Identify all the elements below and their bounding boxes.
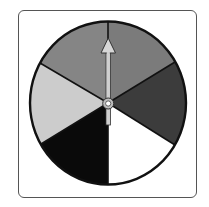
spinner-card — [0, 0, 209, 207]
spinner-wheel[interactable] — [0, 0, 209, 207]
hub-icon — [103, 98, 114, 109]
